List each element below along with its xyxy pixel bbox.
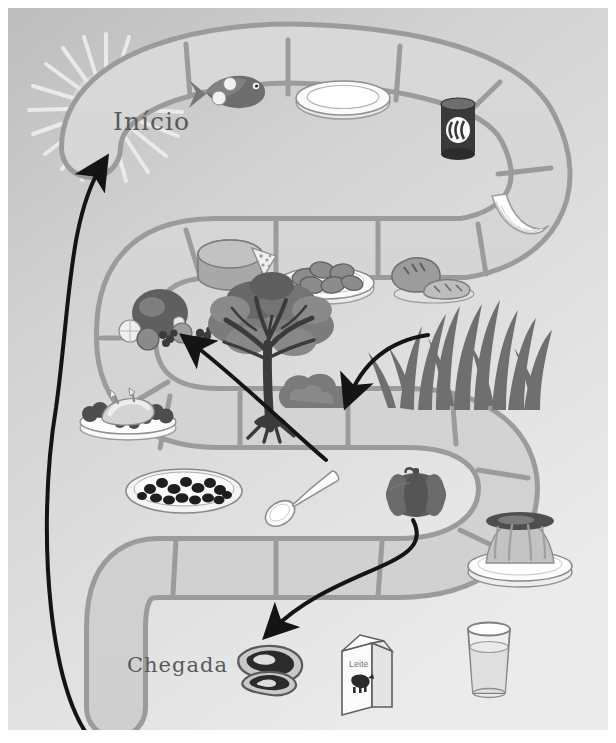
- board-graphics: Leite: [8, 8, 608, 730]
- start-label: Início: [113, 107, 190, 136]
- illustration-canvas: Leite: [0, 0, 616, 743]
- milk-carton-label: Leite: [349, 659, 369, 669]
- plate-icon: [296, 81, 390, 119]
- meat-icon: [238, 646, 302, 695]
- pumpkin-icon: [386, 468, 446, 517]
- game-board: Leite: [8, 8, 608, 730]
- pizza-icon: [126, 469, 242, 513]
- finish-label: Chegada: [127, 653, 228, 677]
- can-icon: [441, 98, 475, 160]
- glass-of-water-icon: [468, 623, 510, 698]
- milk-carton-icon: Leite: [342, 635, 392, 715]
- divider-20: [173, 540, 176, 594]
